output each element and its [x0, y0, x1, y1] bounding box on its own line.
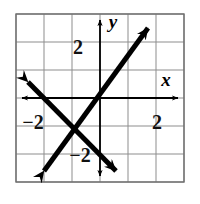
- coordinate-plane-figure: x y 2 −2 −2 2: [0, 0, 200, 204]
- x-tick-positive-two: 2: [152, 111, 162, 133]
- x-axis-label: x: [160, 69, 171, 90]
- y-tick-negative-two: −2: [69, 144, 90, 166]
- graph-canvas: x y 2 −2 −2 2: [0, 0, 200, 204]
- x-tick-negative-two: −2: [22, 111, 43, 133]
- y-tick-positive-two: 2: [73, 36, 83, 58]
- y-axis-label: y: [107, 11, 118, 32]
